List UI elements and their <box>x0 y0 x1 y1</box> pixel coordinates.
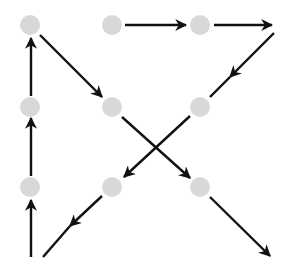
dot-r2c2 <box>102 97 122 117</box>
dot-r2c1 <box>20 97 40 117</box>
dot-r1c2 <box>102 15 122 35</box>
dot-r2c3 <box>190 97 210 117</box>
dot-r1c1 <box>20 15 40 35</box>
dot-r3c1 <box>20 177 40 197</box>
line-segment <box>210 77 230 97</box>
arrow-segment <box>40 35 102 97</box>
arrow-path <box>31 25 274 257</box>
arrow-segment <box>210 197 270 256</box>
dot-r1c3 <box>190 15 210 35</box>
arrow-segment <box>230 33 274 77</box>
dot-r3c3 <box>190 177 210 197</box>
dot-r3c2 <box>102 177 122 197</box>
nine-dot-puzzle-diagram <box>0 0 294 277</box>
arrow-segment <box>70 196 102 226</box>
line-segment <box>43 226 70 257</box>
